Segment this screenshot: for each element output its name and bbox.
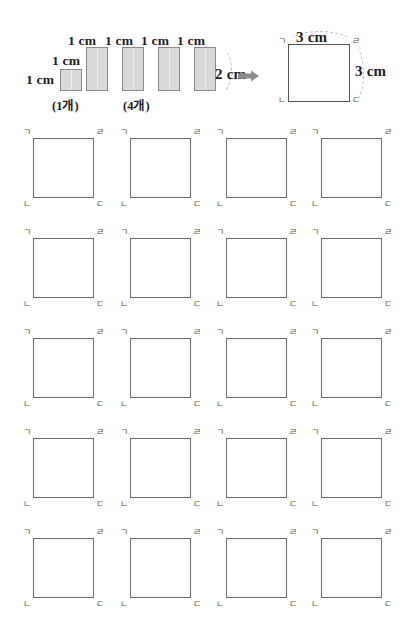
- practice-square[interactable]: ㄱㄹㄴㄷ: [33, 238, 94, 298]
- practice-square-vertex-top-right: ㄹ: [193, 328, 201, 337]
- practice-square-vertex-top-left: ㄱ: [120, 528, 128, 537]
- practice-square-vertex-bottom-left: ㄴ: [311, 500, 319, 509]
- practice-square-outline: [33, 438, 94, 498]
- result-top-length-label: 3 cm: [296, 29, 327, 46]
- practice-square-vertex-bottom-right: ㄷ: [193, 300, 201, 309]
- practice-square[interactable]: ㄱㄹㄴㄷ: [226, 138, 287, 198]
- header-diagram: 1 cm 1 cm 1 cm 1 cm 1 cm 1 cm 2 cm: [0, 0, 413, 120]
- practice-square[interactable]: ㄱㄹㄴㄷ: [226, 338, 287, 398]
- practice-square-outline: [130, 438, 191, 498]
- practice-square[interactable]: ㄱㄹㄴㄷ: [226, 238, 287, 298]
- practice-square-vertex-bottom-right: ㄷ: [384, 400, 392, 409]
- practice-square-outline: [321, 538, 382, 598]
- practice-square-vertex-top-left: ㄱ: [120, 128, 128, 137]
- practice-square-outline: [226, 338, 287, 398]
- practice-square-vertex-top-right: ㄹ: [384, 528, 392, 537]
- practice-square-vertex-bottom-right: ㄷ: [289, 300, 297, 309]
- practice-square-outline: [33, 338, 94, 398]
- practice-square-vertex-bottom-left: ㄴ: [120, 400, 128, 409]
- practice-square[interactable]: ㄱㄹㄴㄷ: [33, 138, 94, 198]
- practice-square-vertex-bottom-left: ㄴ: [311, 200, 319, 209]
- practice-square[interactable]: ㄱㄹㄴㄷ: [321, 438, 382, 498]
- practice-square-vertex-top-left: ㄱ: [216, 428, 224, 437]
- result-right-length-label: 3 cm: [355, 63, 386, 80]
- practice-square-vertex-bottom-right: ㄷ: [96, 200, 104, 209]
- practice-square-vertex-top-right: ㄹ: [384, 228, 392, 237]
- practice-square-vertex-bottom-right: ㄷ: [96, 500, 104, 509]
- practice-square-outline: [321, 338, 382, 398]
- practice-square-vertex-top-right: ㄹ: [96, 328, 104, 337]
- practice-square-outline: [130, 138, 191, 198]
- practice-square[interactable]: ㄱㄹㄴㄷ: [130, 538, 191, 598]
- practice-square-vertex-top-left: ㄱ: [23, 228, 31, 237]
- practice-square-vertex-top-left: ㄱ: [311, 328, 319, 337]
- practice-square-vertex-top-left: ㄱ: [23, 128, 31, 137]
- practice-square[interactable]: ㄱㄹㄴㄷ: [130, 238, 191, 298]
- practice-square-vertex-top-left: ㄱ: [311, 128, 319, 137]
- practice-square[interactable]: ㄱㄹㄴㄷ: [321, 138, 382, 198]
- practice-square-vertex-bottom-right: ㄷ: [96, 400, 104, 409]
- practice-square-vertex-top-right: ㄹ: [96, 428, 104, 437]
- practice-square[interactable]: ㄱㄹㄴㄷ: [33, 538, 94, 598]
- practice-square-vertex-top-left: ㄱ: [120, 228, 128, 237]
- practice-square-vertex-top-left: ㄱ: [216, 328, 224, 337]
- practice-square-vertex-top-right: ㄹ: [289, 128, 297, 137]
- unit-square-top-length-label: 1 cm: [52, 53, 80, 69]
- practice-square-vertex-top-left: ㄱ: [23, 428, 31, 437]
- practice-square-vertex-bottom-right: ㄷ: [193, 600, 201, 609]
- practice-square-vertex-top-right: ㄹ: [193, 528, 201, 537]
- practice-square-vertex-top-left: ㄱ: [23, 328, 31, 337]
- practice-square-vertex-bottom-left: ㄴ: [311, 300, 319, 309]
- practice-square[interactable]: ㄱㄹㄴㄷ: [226, 538, 287, 598]
- practice-square-vertex-bottom-left: ㄴ: [216, 500, 224, 509]
- unit-square-piece: [60, 69, 82, 91]
- practice-square-vertex-top-right: ㄹ: [193, 228, 201, 237]
- practice-square[interactable]: ㄱㄹㄴㄷ: [130, 338, 191, 398]
- practice-square-vertex-bottom-left: ㄴ: [120, 500, 128, 509]
- practice-square-vertex-bottom-left: ㄴ: [216, 200, 224, 209]
- practice-square-vertex-bottom-right: ㄷ: [193, 500, 201, 509]
- unit-square-count-label: (1개): [52, 95, 79, 114]
- practice-square-vertex-bottom-right: ㄷ: [96, 300, 104, 309]
- practice-square-vertex-bottom-right: ㄷ: [289, 500, 297, 509]
- practice-square-outline: [130, 538, 191, 598]
- practice-square-vertex-bottom-right: ㄷ: [193, 400, 201, 409]
- practice-square-vertex-top-left: ㄱ: [311, 228, 319, 237]
- practice-square-vertex-bottom-left: ㄴ: [216, 400, 224, 409]
- practice-square[interactable]: ㄱㄹㄴㄷ: [321, 538, 382, 598]
- result-vertex-bottom-right: ㄷ: [352, 96, 360, 105]
- result-vertex-bottom-left: ㄴ: [278, 96, 286, 105]
- practice-square[interactable]: ㄱㄹㄴㄷ: [130, 138, 191, 198]
- strip-piece-1: [86, 47, 108, 91]
- practice-square[interactable]: ㄱㄹㄴㄷ: [33, 338, 94, 398]
- practice-square[interactable]: ㄱㄹㄴㄷ: [321, 238, 382, 298]
- practice-square-vertex-bottom-left: ㄴ: [120, 200, 128, 209]
- practice-square-vertex-top-right: ㄹ: [384, 128, 392, 137]
- practice-square-vertex-top-left: ㄱ: [311, 528, 319, 537]
- practice-square[interactable]: ㄱㄹㄴㄷ: [33, 438, 94, 498]
- strip-piece-3: [158, 47, 180, 91]
- result-vertex-top-left: ㄱ: [278, 37, 286, 46]
- practice-square[interactable]: ㄱㄹㄴㄷ: [226, 438, 287, 498]
- practice-square-vertex-bottom-left: ㄴ: [216, 600, 224, 609]
- practice-square-outline: [130, 238, 191, 298]
- practice-square[interactable]: ㄱㄹㄴㄷ: [130, 438, 191, 498]
- practice-square-outline: [130, 338, 191, 398]
- practice-square-outline: [226, 538, 287, 598]
- practice-square-vertex-top-left: ㄱ: [120, 328, 128, 337]
- practice-square-vertex-top-left: ㄱ: [23, 528, 31, 537]
- practice-square[interactable]: ㄱㄹㄴㄷ: [321, 338, 382, 398]
- practice-square-outline: [226, 438, 287, 498]
- practice-square-vertex-top-right: ㄹ: [289, 328, 297, 337]
- practice-square-outline: [33, 238, 94, 298]
- unit-square-left-length-label: 1 cm: [26, 72, 54, 88]
- practice-square-vertex-bottom-right: ㄷ: [193, 200, 201, 209]
- strip-piece-2: [122, 47, 144, 91]
- practice-square-outline: [33, 138, 94, 198]
- practice-square-vertex-bottom-left: ㄴ: [311, 400, 319, 409]
- practice-square-outline: [321, 238, 382, 298]
- practice-square-outline: [226, 138, 287, 198]
- worksheet-page: 1 cm 1 cm 1 cm 1 cm 1 cm 1 cm 2 cm: [0, 0, 413, 634]
- practice-square-vertex-bottom-left: ㄴ: [23, 200, 31, 209]
- practice-square-vertex-top-left: ㄱ: [216, 228, 224, 237]
